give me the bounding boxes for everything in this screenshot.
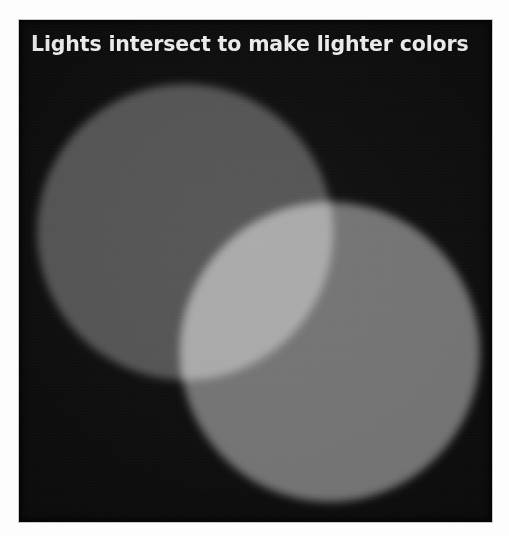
figure-title: Lights intersect to make lighter colors xyxy=(31,32,469,56)
figure-panel: Lights intersect to make lighter colors xyxy=(19,20,492,522)
page-background: Lights intersect to make lighter colors xyxy=(0,0,509,536)
lower-right-light-circle xyxy=(180,202,480,502)
